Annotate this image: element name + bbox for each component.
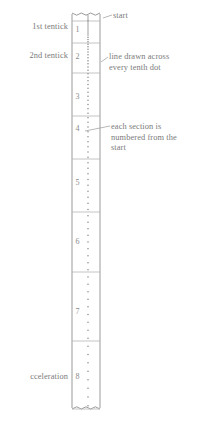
tick-dot-40 <box>87 136 89 138</box>
tick-dot-49 <box>87 185 89 187</box>
tick-dot-32 <box>87 100 89 102</box>
tape-section-number-3: 3 <box>73 92 82 101</box>
left-label-1: 1st tentick <box>32 22 68 33</box>
tick-dot-38 <box>87 126 89 128</box>
tick-dot-52 <box>87 203 89 205</box>
annotation-2-line-2: every tenth dot <box>109 63 169 74</box>
tick-dot-72 <box>87 346 89 348</box>
tick-dot-21 <box>87 60 89 62</box>
tick-dot-1 <box>87 15 89 17</box>
tick-dot-58 <box>87 241 89 243</box>
tick-dot-14 <box>87 41 89 43</box>
tick-dot-64 <box>87 284 89 286</box>
tape-section-number-5: 5 <box>73 178 82 187</box>
tick-dot-60 <box>87 255 89 257</box>
tick-dot-28 <box>87 84 89 86</box>
tick-dot-35 <box>87 112 89 114</box>
tape-section-number-6: 6 <box>73 237 82 246</box>
tick-dot-59 <box>87 248 89 250</box>
tick-dot-17 <box>87 49 89 51</box>
tick-dot-18 <box>87 51 89 53</box>
tick-dot-6 <box>87 24 89 26</box>
tick-dot-75 <box>87 370 89 372</box>
diagram-canvas: 123456781st tentick2nd tentickcceleratio… <box>0 0 200 443</box>
tick-dot-45 <box>87 162 89 164</box>
tape-section-number-4: 4 <box>73 124 82 133</box>
tape-section-number-8: 8 <box>73 372 82 381</box>
tick-dot-68 <box>87 314 89 316</box>
tick-dot-20 <box>87 57 89 59</box>
tape-section-number-7: 7 <box>73 307 82 316</box>
annotation-3-line-2: numbered from the <box>111 133 177 144</box>
tick-dot-16 <box>87 46 89 48</box>
tick-dot-70 <box>87 329 89 331</box>
tick-dot-44 <box>87 157 89 159</box>
tick-dot-42 <box>87 146 89 148</box>
tick-dot-23 <box>87 66 89 68</box>
annotation-3: each section isnumbered from thestart <box>111 122 177 154</box>
tick-dot-47 <box>87 173 89 175</box>
left-label-3: cceleration <box>0 372 68 383</box>
tick-dot-67 <box>87 306 89 308</box>
tick-dot-5 <box>87 22 89 24</box>
annotation-3-line-3: start <box>111 143 177 154</box>
tick-dot-7 <box>87 26 89 28</box>
annotation-leader-line-1 <box>103 15 112 18</box>
tick-dot-55 <box>87 221 89 223</box>
tick-dot-53 <box>87 209 89 211</box>
tick-dot-27 <box>87 80 89 82</box>
tick-dot-76 <box>87 379 89 381</box>
tick-dot-12 <box>87 36 89 38</box>
tick-dot-79 <box>87 405 89 407</box>
tape-body <box>72 13 100 409</box>
annotation-2-line-1: line drawn across <box>109 52 169 63</box>
tick-dot-56 <box>87 228 89 230</box>
tick-dot-77 <box>87 388 89 390</box>
annotation-1-line-1: start <box>113 11 128 22</box>
tick-dot-2 <box>87 17 89 19</box>
tick-dot-73 <box>87 354 89 356</box>
left-label-2: 2nd tentick <box>29 51 68 62</box>
tick-dot-46 <box>87 167 89 169</box>
tick-dot-48 <box>87 179 89 181</box>
tick-dot-8 <box>87 28 89 30</box>
tick-dot-13 <box>87 39 89 41</box>
tick-dot-29 <box>87 88 89 90</box>
tick-dot-39 <box>87 131 89 133</box>
tick-dot-10 <box>87 32 89 34</box>
tick-dot-37 <box>87 122 89 124</box>
tape-section-number-2: 2 <box>73 52 82 61</box>
tick-dot-71 <box>87 337 89 339</box>
tick-dot-36 <box>87 117 89 119</box>
tick-dot-26 <box>87 76 89 78</box>
tick-dot-65 <box>87 291 89 293</box>
tick-dot-30 <box>87 91 89 93</box>
tick-dot-4 <box>87 20 89 22</box>
annotation-2: line drawn acrossevery tenth dot <box>109 52 169 73</box>
tick-dot-43 <box>87 151 89 153</box>
tick-dot-33 <box>87 104 89 106</box>
tick-dot-74 <box>87 362 89 364</box>
tick-dot-15 <box>87 43 89 45</box>
annotation-leader-line-2 <box>101 57 108 62</box>
tick-dot-69 <box>87 322 89 324</box>
tick-dot-31 <box>87 95 89 97</box>
tape-section-number-1: 1 <box>73 25 82 34</box>
tick-dot-62 <box>87 269 89 271</box>
tick-dot-61 <box>87 262 89 264</box>
tick-dot-66 <box>87 298 89 300</box>
tick-dot-50 <box>87 190 89 192</box>
annotation-3-line-1: each section is <box>111 122 177 133</box>
tick-dot-51 <box>87 196 89 198</box>
tick-dot-57 <box>87 235 89 237</box>
tick-dot-63 <box>87 276 89 278</box>
tick-dot-78 <box>87 396 89 398</box>
tick-dot-34 <box>87 108 89 110</box>
tick-dot-54 <box>87 215 89 217</box>
tick-dot-11 <box>87 34 89 36</box>
tick-dot-25 <box>87 73 89 75</box>
tick-dot-41 <box>87 141 89 143</box>
tick-dot-19 <box>87 54 89 56</box>
tick-dot-22 <box>87 63 89 65</box>
annotation-1: start <box>113 11 128 22</box>
